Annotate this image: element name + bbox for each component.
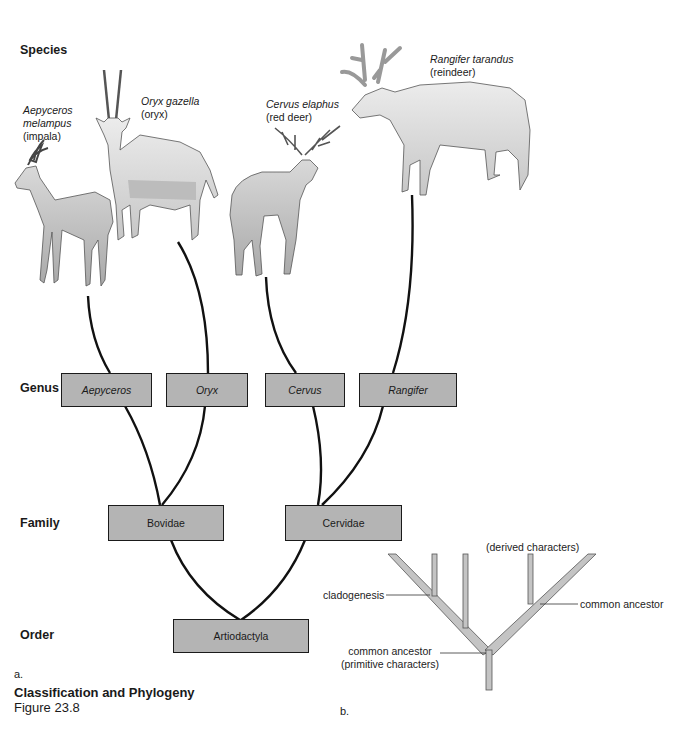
tree-lines [88,195,413,620]
cladogram-label-root: common ancestor (primitive characters) [340,645,440,671]
red-deer-illustration [230,126,340,276]
order-box-artiodactyla: Artiodactyla [173,619,309,653]
cladogram-root-line1: common ancestor [340,645,440,658]
cladogram-label-cladogenesis: cladogenesis [323,589,384,602]
cladogram-root-line2: (primitive characters) [340,658,440,671]
genus-box-aepyceros: Aepyceros [61,373,152,407]
genus-box-rangifer: Rangifer [359,373,457,407]
genus-box-cervus: Cervus [265,373,345,407]
family-box-cervidae: Cervidae [285,505,402,541]
impala-illustration [15,140,113,286]
cladogram-label-derived: (derived characters) [486,541,579,554]
oryx-illustration [96,70,218,240]
panel-label-b: b. [340,705,349,717]
figure-caption-title: Classification and Phylogeny [14,685,195,700]
family-box-bovidae: Bovidae [108,505,224,541]
panel-label-a: a. [14,668,23,680]
reindeer-illustration [342,45,530,195]
illustration-layer [0,0,689,742]
cladogram-label-common-ancestor: common ancestor [580,598,663,611]
figure-caption-number: Figure 23.8 [14,700,80,715]
genus-box-oryx: Oryx [166,373,248,407]
